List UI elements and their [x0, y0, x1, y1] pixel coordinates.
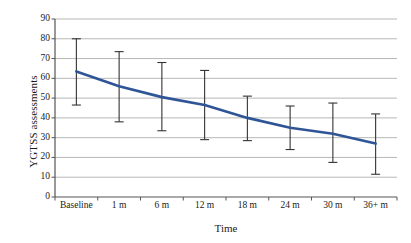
chart-container: YGTSS assessments 0102030405060708090 Ba… [0, 0, 411, 243]
plot-area [0, 0, 411, 243]
axis-lines [55, 19, 397, 197]
gridlines [55, 19, 397, 177]
data-series-line [76, 71, 375, 143]
error-bars [72, 39, 380, 174]
